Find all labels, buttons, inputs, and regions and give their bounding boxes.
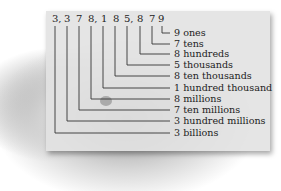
label-hundred-thousands: 1 hundred thousand [174, 83, 272, 93]
label-hundreds: 8 hundreds [174, 49, 229, 59]
label-ten-thousands: 8 ten thousands [174, 71, 252, 81]
label-thousands: 5 thousands [174, 60, 233, 70]
label-ten-millions: 7 ten millions [174, 105, 240, 115]
connector-lines [0, 0, 281, 191]
label-millions: 8 millions [174, 94, 221, 104]
label-hundred-millions: 3 hundred millions [174, 116, 266, 126]
label-ones: 9 ones [174, 28, 206, 38]
label-billions: 3 billions [174, 128, 218, 138]
